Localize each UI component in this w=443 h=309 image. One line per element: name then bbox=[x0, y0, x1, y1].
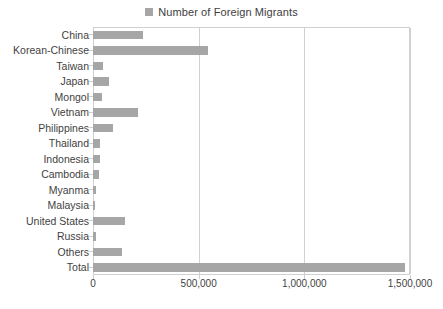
chart-row: Indonesia bbox=[0, 151, 443, 167]
chart-row: Japan bbox=[0, 74, 443, 90]
bar bbox=[93, 139, 100, 148]
x-axis-tick-label: 0 bbox=[90, 279, 96, 289]
chart-row: Mongol bbox=[0, 89, 443, 105]
chart-row: China bbox=[0, 27, 443, 43]
bar bbox=[93, 248, 122, 257]
chart-row: Vietnam bbox=[0, 105, 443, 121]
chart-rows: ChinaKorean-ChineseTaiwanJapanMongolViet… bbox=[0, 27, 443, 275]
bar bbox=[93, 201, 95, 210]
chart-row: Myanma bbox=[0, 182, 443, 198]
bar bbox=[93, 124, 113, 133]
chart-row: Russia bbox=[0, 229, 443, 245]
bar bbox=[93, 263, 405, 272]
category-label: Malaysia bbox=[0, 200, 89, 211]
chart-row: United States bbox=[0, 213, 443, 229]
category-label: Korean-Chinese bbox=[0, 45, 89, 56]
x-axis-tick-label: 1,500,000 bbox=[388, 279, 433, 289]
bar bbox=[93, 232, 96, 241]
chart-row: Total bbox=[0, 260, 443, 276]
x-axis-tick-mark bbox=[93, 275, 94, 279]
bar-track bbox=[93, 43, 410, 59]
x-axis-tick-labels: 0500,0001,000,0001,500,000 bbox=[0, 279, 443, 295]
bar-track bbox=[93, 182, 410, 198]
bar-track bbox=[93, 105, 410, 121]
legend-label: Number of Foreign Migrants bbox=[158, 6, 298, 18]
horizontal-bar-chart: Number of Foreign Migrants ChinaKorean-C… bbox=[0, 0, 443, 309]
category-label: Philippines bbox=[0, 123, 89, 134]
bar bbox=[93, 62, 103, 71]
chart-row: Korean-Chinese bbox=[0, 43, 443, 59]
category-label: China bbox=[0, 30, 89, 41]
chart-legend: Number of Foreign Migrants bbox=[0, 6, 443, 18]
bar-track bbox=[93, 260, 410, 276]
category-label: Japan bbox=[0, 76, 89, 87]
bar-track bbox=[93, 27, 410, 43]
bar-track bbox=[93, 136, 410, 152]
chart-row: Philippines bbox=[0, 120, 443, 136]
category-label: Others bbox=[0, 247, 89, 258]
bar-track bbox=[93, 151, 410, 167]
bar bbox=[93, 77, 109, 86]
x-axis-tick-mark bbox=[199, 275, 200, 279]
legend-color-swatch-icon bbox=[145, 8, 153, 16]
category-label: Vietnam bbox=[0, 107, 89, 118]
bar-track bbox=[93, 229, 410, 245]
category-label: Russia bbox=[0, 231, 89, 242]
chart-row: Cambodia bbox=[0, 167, 443, 183]
category-label: Myanma bbox=[0, 185, 89, 196]
bar-track bbox=[93, 198, 410, 214]
bar-track bbox=[93, 58, 410, 74]
category-label: Cambodia bbox=[0, 169, 89, 180]
chart-row: Others bbox=[0, 244, 443, 260]
bar-track bbox=[93, 244, 410, 260]
bar bbox=[93, 93, 102, 102]
chart-row: Malaysia bbox=[0, 198, 443, 214]
x-axis-tick-mark bbox=[304, 275, 305, 279]
category-label: Thailand bbox=[0, 138, 89, 149]
category-label: United States bbox=[0, 216, 89, 227]
bar-track bbox=[93, 89, 410, 105]
bar bbox=[93, 108, 138, 117]
x-axis-tick-label: 1,000,000 bbox=[282, 279, 327, 289]
bar bbox=[93, 170, 99, 179]
category-label: Total bbox=[0, 262, 89, 273]
x-axis-tick-mark bbox=[410, 275, 411, 279]
bar bbox=[93, 217, 125, 226]
bar-track bbox=[93, 213, 410, 229]
bar bbox=[93, 155, 100, 164]
x-axis-tick-label: 500,000 bbox=[181, 279, 217, 289]
category-label: Taiwan bbox=[0, 61, 89, 72]
chart-row: Taiwan bbox=[0, 58, 443, 74]
bar-track bbox=[93, 167, 410, 183]
bar bbox=[93, 186, 96, 195]
bar-track bbox=[93, 120, 410, 136]
bar bbox=[93, 31, 143, 40]
category-label: Indonesia bbox=[0, 154, 89, 165]
bar-track bbox=[93, 74, 410, 90]
category-label: Mongol bbox=[0, 92, 89, 103]
bar bbox=[93, 46, 208, 55]
chart-row: Thailand bbox=[0, 136, 443, 152]
